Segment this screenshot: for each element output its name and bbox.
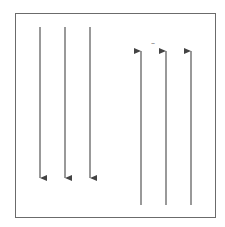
downward-arrows-group (40, 27, 90, 178)
arrows-diagram: – (0, 0, 225, 227)
upward-arrows-group (141, 51, 191, 205)
small-dash-mark: – (151, 39, 155, 48)
